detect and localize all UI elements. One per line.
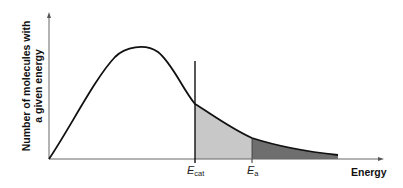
energy-distribution-chart (0, 0, 403, 188)
y-axis-arrow-icon (47, 12, 51, 18)
y-axis-label-line2: a given energy (32, 21, 44, 152)
ecat-label: Ecat (187, 164, 204, 178)
x-axis-arrow-icon (378, 157, 384, 161)
ea-label-sub: a (254, 169, 258, 178)
y-axis-label-line1: Number of molecules with (20, 21, 32, 152)
ecat-label-sub: cat (194, 169, 204, 178)
x-axis-label: Energy (351, 166, 387, 178)
y-axis-label: Number of molecules with a given energy (20, 21, 44, 152)
ea-label: Ea (247, 164, 259, 178)
distribution-curve (49, 47, 338, 159)
shaded-area-catalysed (195, 104, 252, 159)
